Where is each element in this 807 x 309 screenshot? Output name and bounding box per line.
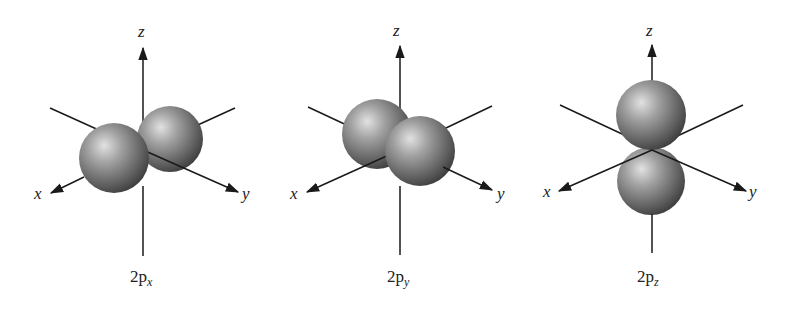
panel-2py: z x y 2py [289,21,505,289]
x-axis-front [51,177,84,193]
y-axis-label: y [240,184,250,203]
orbital-diagram: z x y 2px z x y 2py z x y 2pz [0,0,807,309]
caption-2px: 2px [130,267,153,289]
x-axis-label: x [542,182,551,201]
z-axis-label: z [392,21,400,40]
z-axis-label: z [137,22,145,41]
y-axis-front [443,167,492,190]
lobe-front [79,123,149,193]
caption-2py: 2py [387,267,410,289]
z-axis-label: z [645,21,653,40]
lobe-upper [616,80,686,150]
y-axis-label: y [747,182,757,201]
x-axis-label: x [289,184,298,203]
y-axis-label: y [495,184,505,203]
panel-2px: z x y 2px [33,22,250,289]
panel-2pz: z x y 2pz [542,21,757,289]
lobe-front [385,116,455,186]
caption-2pz: 2pz [637,267,659,289]
x-axis-label: x [33,184,42,203]
lobe-lower [617,147,685,215]
